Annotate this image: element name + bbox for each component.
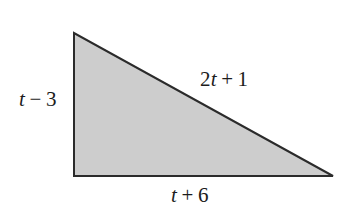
label-left-leg: t − 3 (19, 89, 57, 110)
label-base: t + 6 (171, 185, 209, 206)
label-base-operator: + (177, 183, 198, 207)
label-hypotenuse: 2t + 1 (200, 69, 248, 90)
triangle-figure: t − 3 2t + 1 t + 6 (0, 0, 344, 217)
label-left-leg-constant: 3 (46, 87, 57, 111)
label-hypotenuse-coefficient: 2 (200, 67, 211, 91)
label-hypotenuse-constant: 1 (238, 67, 249, 91)
right-triangle-shape (74, 33, 333, 176)
label-hypotenuse-operator: + (217, 67, 238, 91)
label-left-leg-operator: − (25, 87, 46, 111)
label-base-constant: 6 (198, 183, 209, 207)
